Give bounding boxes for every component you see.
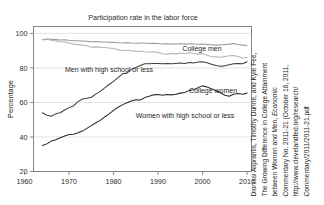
x-tick-label: 1990 (150, 177, 166, 186)
y-tick-label: 80 (20, 64, 28, 73)
citation-line-5: http://www.clevelandfed.org/research/ (294, 87, 301, 197)
chart-title-group: Participation rate in the labor force (88, 13, 197, 22)
annotation-men-high-school: Men with high school or less (65, 66, 153, 74)
annotation-college-men: College men (182, 45, 221, 53)
x-tick-label: 2000 (195, 177, 211, 186)
figure-container: Participation rate in the labor force Pe… (0, 0, 324, 205)
x-tick-label: 1970 (61, 177, 77, 186)
y-tick-label: 60 (20, 98, 28, 107)
y-tick-labels: 20406080100 (16, 29, 28, 176)
y-tick-marks (30, 33, 34, 171)
chart-title: Participation rate in the labor force (88, 13, 197, 22)
x-tick-label: 1980 (106, 177, 122, 186)
citation-line-2: The Growing Difference in College Attain… (262, 63, 269, 197)
gridlines (34, 33, 252, 171)
citation-block: Dionissi Aliprantis, Timothy Dunne, and … (256, 0, 324, 205)
y-tick-label: 40 (20, 133, 28, 142)
annotation-college-women: College women (189, 87, 237, 95)
x-tick-marks (25, 172, 247, 176)
y-tick-label: 100 (16, 29, 28, 38)
citation-line-3: between Women and Men, Economic (273, 88, 280, 197)
x-tick-label: 1960 (17, 177, 33, 186)
citation-line-1: Dionissi Aliprantis, Timothy Dunne, and … (251, 53, 258, 197)
x-tick-labels: 196019701980199020002010 (17, 177, 255, 186)
y-axis-label: Percentage (6, 80, 15, 118)
annotation-women-high-school: Women with high school or less (136, 112, 235, 120)
citation-line-4: Commentary No. 2011-21 (October 18, 2011… (283, 65, 290, 197)
citation-line-6: Commentary/2011/2011-21.pdf (304, 107, 311, 197)
y-axis-label-group: Percentage (6, 80, 15, 118)
y-tick-label: 20 (20, 167, 28, 176)
